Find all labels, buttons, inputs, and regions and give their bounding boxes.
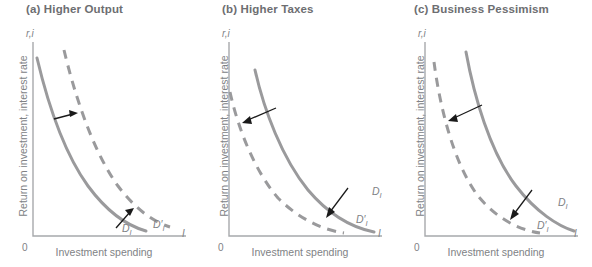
panel-a-label-d-prime: D′I: [153, 218, 165, 233]
panel-a-y-axis-symbol: r,i: [26, 28, 34, 39]
panel-c-xlabel: Investment spending: [426, 246, 566, 258]
figure-container: (a) Higher Output r,i I 0 DI D′I Return …: [0, 0, 592, 267]
panel-c: (c) Business Pessimism r,i I 0 DI D′I Re…: [392, 0, 588, 267]
panel-b-y-axis-symbol: r,i: [222, 28, 230, 39]
panel-c-label-d: DI: [558, 196, 568, 211]
panel-b-curve-solid: [255, 70, 374, 232]
panel-a-plot: [0, 0, 196, 267]
panel-a-xlabel: Investment spending: [34, 246, 174, 258]
panel-a-x-axis-symbol: I: [182, 228, 185, 239]
panel-b-axes: [229, 42, 382, 236]
panel-c-arrow-upper: [448, 105, 482, 122]
panel-b-xlabel: Investment spending: [230, 246, 370, 258]
panel-b-curve-dashed: [230, 92, 344, 233]
panel-c-ylabel: Return on investment, interest rate: [414, 46, 426, 226]
panel-b: (b) Higher Taxes r,i I 0 DI D′I Return o…: [196, 0, 392, 267]
panel-a: (a) Higher Output r,i I 0 DI D′I Return …: [0, 0, 196, 267]
panel-a-origin: 0: [22, 242, 28, 253]
panel-b-x-axis-symbol: I: [378, 228, 381, 239]
panel-c-origin: 0: [414, 242, 420, 253]
panel-b-arrow-lower: [326, 188, 348, 218]
panel-a-curve-dashed: [64, 50, 170, 227]
panel-b-label-d-prime: D′I: [356, 213, 368, 228]
panel-a-curve-solid: [37, 58, 146, 231]
panel-a-axes: [33, 42, 186, 236]
panel-b-origin: 0: [218, 242, 224, 253]
panel-b-label-d: DI: [372, 185, 382, 200]
panel-c-axes: [425, 42, 578, 236]
panel-c-label-d-prime: D′I: [537, 219, 549, 234]
panel-a-ylabel: Return on investment, interest rate: [17, 46, 29, 226]
panel-c-curve-dashed: [434, 62, 540, 233]
panel-c-y-axis-symbol: r,i: [418, 28, 426, 39]
panel-c-x-axis-symbol: I: [574, 228, 577, 239]
panel-a-label-d: DI: [122, 222, 132, 237]
panel-b-ylabel: Return on investment, interest rate: [218, 46, 230, 226]
panel-a-arrow-upper: [54, 110, 78, 119]
